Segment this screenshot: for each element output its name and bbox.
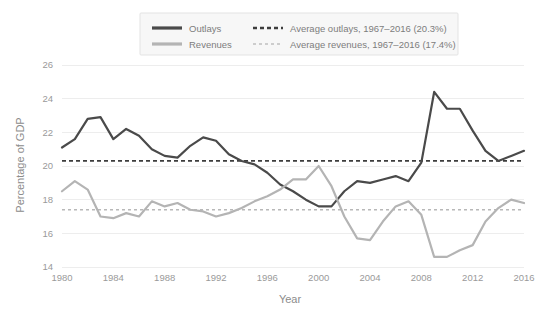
y-tick-label-14: 14 — [42, 261, 53, 272]
legend-item-outlays: Outlays — [189, 23, 221, 34]
legend-item-average-outlays: Average outlays, 1967–2016 (20.3%) — [290, 23, 447, 34]
y-tick-label-22: 22 — [42, 127, 53, 138]
x-tick-label-2004: 2004 — [359, 272, 380, 283]
x-tick-label-2000: 2000 — [308, 272, 329, 283]
x-tick-label-1992: 1992 — [205, 272, 226, 283]
y-tick-label-18: 18 — [42, 194, 53, 205]
x-tick-label-2012: 2012 — [462, 272, 483, 283]
x-tick-label-2008: 2008 — [411, 272, 432, 283]
legend-item-average-revenues: Average revenues, 1967–2016 (17.4%) — [290, 39, 456, 50]
x-tick-label-1984: 1984 — [103, 272, 124, 283]
chart-legend[interactable]: Outlays Revenues Average outlays, 1967–2… — [140, 13, 458, 55]
chart-container: 14161820222426 1980198419881992199620002… — [0, 0, 540, 319]
x-tick-label-1996: 1996 — [257, 272, 278, 283]
y-tick-label-26: 26 — [42, 59, 53, 70]
y-axis-title: Percentage of GDP — [14, 117, 26, 212]
x-axis-title: Year — [279, 293, 302, 305]
x-tick-label-1988: 1988 — [154, 272, 175, 283]
line-chart: 14161820222426 1980198419881992199620002… — [0, 0, 540, 319]
legend-item-revenues: Revenues — [189, 39, 232, 50]
y-tick-label-16: 16 — [42, 228, 53, 239]
x-tick-label-1980: 1980 — [51, 272, 72, 283]
y-tick-label-20: 20 — [42, 160, 53, 171]
y-tick-label-24: 24 — [42, 93, 53, 104]
x-tick-label-2016: 2016 — [513, 272, 534, 283]
